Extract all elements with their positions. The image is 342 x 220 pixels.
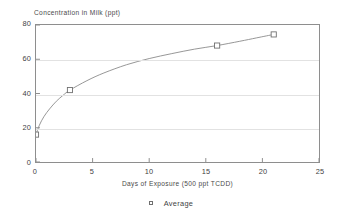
y-tick-label: 40 [22,89,31,98]
plot-svg [36,25,319,162]
gridline-y-20 [36,129,319,130]
legend-item-label: Average [164,199,194,208]
chart-page: Concentration in Milk (ppt) 020406080 05… [0,0,342,220]
data-point-marker [36,132,39,137]
x-axis-label: Days of Exposure (500 ppt TCDD) [35,180,320,187]
chart-legend: Average [0,199,342,208]
x-tick-label: 10 [145,167,154,176]
y-tick-label: 20 [22,123,31,132]
x-tick-label: 20 [259,167,268,176]
x-tick-label: 25 [316,167,325,176]
data-point-marker [215,43,220,48]
fitted-curve [36,34,274,134]
x-tick-label: 15 [202,167,211,176]
y-tick-label: 0 [27,158,31,167]
data-point-marker [271,32,276,37]
y-tick-label: 60 [22,54,31,63]
x-tick-label: 0 [33,167,37,176]
x-axis-tick-labels: 0510152025 [35,167,320,179]
gridline-y-40 [36,95,319,96]
y-tick-label: 80 [22,19,31,28]
x-tick-label: 5 [90,167,94,176]
legend-item-average: Average [149,199,194,208]
chart-title: Concentration in Milk (ppt) [34,9,120,16]
y-axis-tick-labels: 020406080 [0,24,31,163]
plot-area [35,24,320,163]
open-square-marker-icon [149,201,153,205]
gridline-y-60 [36,60,319,61]
data-point-marker [67,88,72,93]
